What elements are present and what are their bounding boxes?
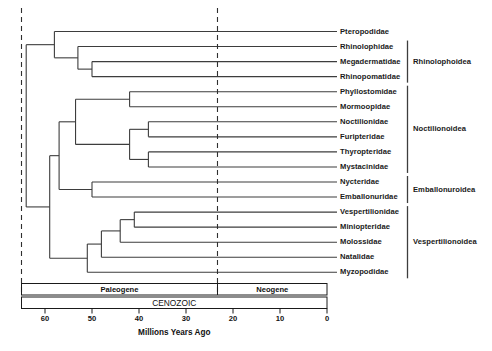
taxon-label-pteropodidae: Pteropodidae bbox=[340, 28, 389, 36]
epoch-label-paleogene: Paleogene bbox=[69, 286, 169, 294]
tree-canvas bbox=[0, 0, 492, 351]
axis-title: Millions Years Ago bbox=[104, 329, 244, 337]
axis-tick-label-20: 20 bbox=[213, 315, 253, 323]
taxon-label-noctilionidae: Noctilionidae bbox=[340, 118, 388, 126]
taxon-label-miniopteridae: Miniopteridae bbox=[340, 223, 390, 231]
clade-label-rhinolophoidea: Rhinolophoidea bbox=[413, 58, 471, 66]
taxon-label-vespertilionidae: Vespertilionidae bbox=[340, 208, 399, 216]
taxon-label-nycteridae: Nycteridae bbox=[340, 178, 379, 186]
taxon-label-phyllostomidae: Phyllostomidae bbox=[340, 88, 397, 96]
taxon-label-thyropteridae: Thyropteridae bbox=[340, 148, 391, 156]
taxon-label-natalidae: Natalidae bbox=[340, 253, 374, 261]
taxon-label-molossidae: Molossidae bbox=[340, 238, 382, 246]
clade-label-emballonuroidea: Emballonuroidea bbox=[413, 186, 475, 194]
taxon-label-furipteridae: Furipteridae bbox=[340, 133, 384, 141]
taxon-label-megadermatidae: Megadermatidae bbox=[340, 58, 401, 66]
taxon-label-mystacinidae: Mystacinidae bbox=[340, 163, 388, 171]
taxon-label-mormoopidae: Mormoopidae bbox=[340, 103, 390, 111]
taxon-label-rhinolophidae: Rhinolophidae bbox=[340, 43, 393, 51]
axis-tick-label-60: 60 bbox=[25, 315, 65, 323]
clade-label-noctilionoidea: Noctilionoidea bbox=[413, 125, 466, 133]
era-label-cenozoic: CENOZOIC bbox=[114, 299, 234, 307]
axis-tick-label-0: 0 bbox=[307, 315, 347, 323]
epoch-label-neogene: Neogene bbox=[222, 286, 322, 294]
clade-label-vespertilionoidea: Vespertilionoidea bbox=[413, 238, 477, 246]
axis-tick-label-10: 10 bbox=[260, 315, 300, 323]
taxon-label-rhinopomatidae: Rhinopomatidae bbox=[340, 73, 400, 81]
axis-tick-label-50: 50 bbox=[72, 315, 112, 323]
taxon-label-myzopodidae: Myzopodidae bbox=[340, 268, 389, 276]
axis-tick-label-40: 40 bbox=[119, 315, 159, 323]
taxon-label-emballonuridae: Emballonuridae bbox=[340, 193, 398, 201]
phylogenetic-tree-figure: PteropodidaeRhinolophidaeMegadermatidaeR… bbox=[0, 0, 492, 351]
axis-tick-label-30: 30 bbox=[166, 315, 206, 323]
